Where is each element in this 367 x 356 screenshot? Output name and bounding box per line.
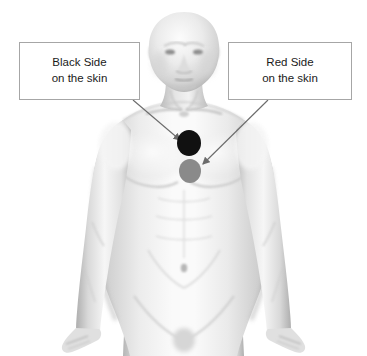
callout-black-side-line1: Black Side bbox=[52, 55, 106, 71]
callout-black-side: Black Side on the skin bbox=[19, 42, 140, 100]
hand-left bbox=[62, 328, 101, 353]
callout-black-side-line2: on the skin bbox=[52, 71, 108, 87]
eye-right bbox=[193, 49, 203, 54]
callout-red-side-line1: Red Side bbox=[266, 55, 313, 71]
hand-right bbox=[266, 328, 305, 353]
head-group bbox=[149, 12, 220, 92]
diagram-canvas: Black Side on the skin Red Side on the s… bbox=[0, 0, 367, 356]
callout-red-side-line2: on the skin bbox=[262, 71, 318, 87]
eye-left bbox=[165, 49, 175, 54]
navel bbox=[181, 264, 187, 272]
callout-red-side: Red Side on the skin bbox=[228, 42, 352, 100]
